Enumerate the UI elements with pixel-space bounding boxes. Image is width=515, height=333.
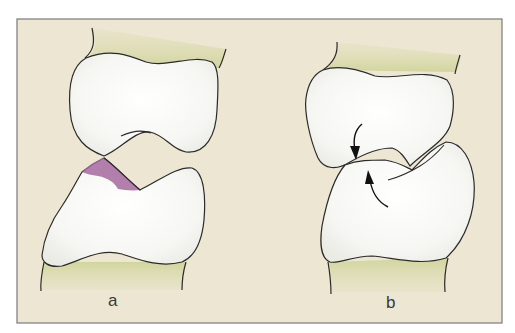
panel-a-lower-shaft <box>42 262 186 290</box>
panel-b-lower-shaft <box>328 258 448 292</box>
panel-a-label: a <box>108 291 118 310</box>
panel-b-label: b <box>386 293 395 312</box>
joint-diagram: a b <box>0 0 515 333</box>
